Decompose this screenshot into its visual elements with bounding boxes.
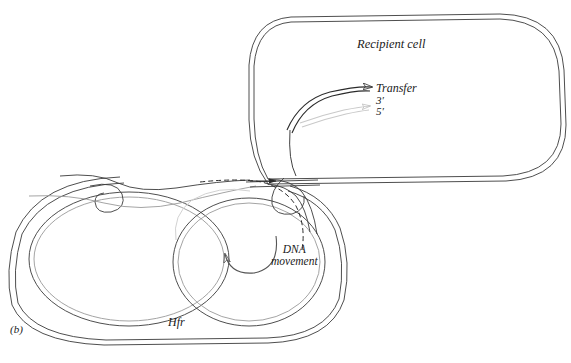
conjugation-bridge-icon (246, 178, 320, 234)
conjugation-diagram: Recipient cell Transfer 3′ 5′ DNA moveme… (0, 0, 571, 363)
dna-movement-label: DNA movement (271, 243, 318, 267)
origin-of-transfer-swirl-icon (29, 175, 256, 212)
transfer-arrow-icon (287, 87, 372, 133)
panel-label: (b) (10, 324, 23, 336)
dna-movement-label-line1: DNA (271, 243, 318, 255)
hfr-chromosome-left-circle (29, 192, 229, 326)
transfer-label: Transfer (376, 82, 417, 95)
recipient-cell-label: Recipient cell (357, 38, 425, 51)
hfr-label: Hfr (168, 316, 185, 329)
dna-rotation-arrow-icon (225, 236, 277, 273)
five-prime-label: 5′ (376, 106, 384, 118)
five-prime-strand-arrow-icon (300, 106, 370, 127)
diagram-canvas (0, 0, 571, 363)
dna-movement-label-line2: movement (271, 255, 318, 267)
